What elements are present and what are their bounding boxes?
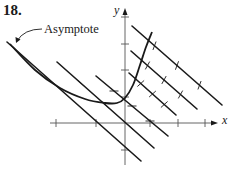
slope-mark — [126, 123, 133, 129]
x-axis-arrow-icon — [211, 121, 218, 126]
asymptote-label: Asymptote — [44, 22, 99, 36]
slope-mark — [145, 62, 149, 70]
slope-mark — [178, 91, 182, 99]
asymptote-leader-arrow — [17, 29, 42, 41]
leader-arrowhead-icon — [16, 37, 21, 43]
y-axis-arrow-icon — [123, 8, 128, 15]
x-axis-label: x — [222, 114, 227, 126]
slope-mark — [78, 80, 85, 86]
problem-number: 18. — [3, 2, 22, 18]
slope-field-diagram — [0, 0, 243, 172]
slope-marks — [78, 42, 201, 130]
y-axis-label: y — [114, 4, 119, 16]
solution-curve — [10, 32, 152, 104]
slope-mark — [162, 76, 166, 84]
isoclines — [7, 26, 222, 161]
